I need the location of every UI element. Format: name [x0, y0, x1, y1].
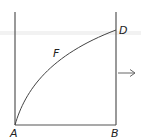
diagram: D F A B [0, 0, 141, 140]
label-A: A [9, 127, 18, 140]
right-arrow-icon [118, 70, 135, 77]
curve-AFD [15, 30, 116, 125]
label-D: D [119, 24, 127, 37]
label-B: B [111, 127, 119, 140]
label-F: F [53, 47, 60, 60]
